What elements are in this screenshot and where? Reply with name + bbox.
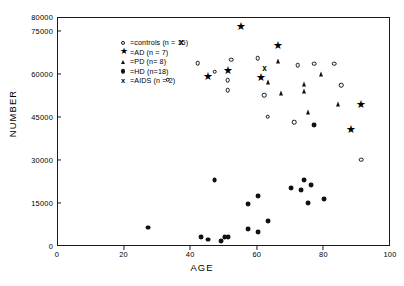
marker-filled-circle	[305, 201, 310, 206]
marker-filled-triangle	[266, 79, 270, 84]
marker-filled-circle	[255, 194, 260, 199]
marker-open-circle	[229, 57, 234, 62]
marker-filled-triangle	[302, 88, 306, 93]
x-tick-label: 60	[252, 250, 261, 259]
marker-open-circle	[312, 61, 317, 66]
marker-star: ★	[346, 124, 356, 135]
y-tick-label: 0	[49, 242, 53, 251]
marker-filled-circle	[265, 219, 270, 224]
plot-area: ★★★★★★★xx = controls (n = 15)★= AD (n = …	[57, 17, 390, 246]
marker-filled-circle	[245, 201, 250, 206]
legend-filled-triangle-icon	[121, 57, 130, 66]
legend-x-icon: x	[121, 76, 130, 85]
x-tick-label: 0	[55, 250, 59, 259]
legend-filled-circle-icon	[121, 67, 130, 76]
marker-open-circle	[265, 114, 270, 119]
marker-filled-circle	[245, 227, 250, 232]
marker-open-circle	[339, 83, 344, 88]
marker-filled-circle	[289, 185, 294, 190]
marker-filled-triangle	[276, 59, 280, 64]
marker-star: ★	[356, 99, 366, 110]
marker-open-circle	[256, 56, 261, 61]
legend-item: = PD (n= 8)	[121, 57, 229, 66]
legend-label: PD (n= 8)	[134, 57, 166, 66]
marker-filled-triangle	[302, 81, 306, 86]
scatter-plot-figure: NUMBER 0150003000045000600007500080000 0…	[0, 0, 404, 286]
y-axis-ticks: 0150003000045000600007500080000	[0, 0, 53, 286]
marker-open-circle	[292, 120, 297, 125]
marker-filled-circle	[212, 177, 217, 182]
marker-filled-circle	[205, 237, 210, 242]
marker-filled-triangle	[306, 109, 310, 114]
x-tick-mark	[123, 246, 124, 250]
marker-open-circle	[262, 93, 267, 98]
marker-filled-circle	[199, 235, 204, 240]
marker-filled-circle	[322, 197, 327, 202]
y-tick-label: 75000	[31, 27, 53, 36]
x-tick-mark	[323, 246, 324, 250]
y-tick-mark	[57, 117, 61, 118]
legend-item: = controls (n = 15)	[121, 38, 229, 47]
chart-legend: = controls (n = 15)★= AD (n = 7)= PD (n=…	[121, 38, 229, 85]
marker-filled-circle	[299, 187, 304, 192]
legend-label: AD (n = 7)	[134, 48, 168, 57]
x-tick-mark	[256, 246, 257, 250]
marker-x: x	[262, 65, 267, 73]
y-tick-label: 60000	[31, 70, 53, 79]
x-axis-title: AGE	[0, 262, 404, 273]
marker-open-circle	[332, 62, 337, 67]
y-tick-mark	[57, 160, 61, 161]
marker-filled-circle	[312, 123, 317, 128]
marker-star: ★	[256, 71, 266, 82]
legend-item: x= AIDS (n = 2)	[121, 76, 229, 85]
x-tick-label: 80	[319, 250, 328, 259]
x-tick-label: 100	[383, 250, 396, 259]
marker-star: ★	[273, 40, 283, 51]
legend-star-icon: ★	[121, 48, 130, 57]
x-tick-mark	[190, 246, 191, 250]
marker-filled-circle	[309, 183, 314, 188]
marker-open-circle	[295, 63, 300, 68]
marker-filled-circle	[255, 229, 260, 234]
x-tick-label: 20	[119, 250, 128, 259]
marker-star: ★	[236, 21, 246, 32]
y-tick-mark	[57, 203, 61, 204]
marker-filled-triangle	[279, 90, 283, 95]
legend-label: HD (n=18)	[134, 67, 168, 76]
y-tick-mark	[57, 31, 61, 32]
legend-item: ★= AD (n = 7)	[121, 47, 229, 56]
y-tick-label: 30000	[31, 156, 53, 165]
marker-open-circle	[226, 88, 231, 93]
marker-filled-triangle	[319, 72, 323, 77]
legend-label: controls (n = 15)	[134, 38, 188, 47]
marker-filled-circle	[302, 178, 307, 183]
marker-filled-circle	[225, 235, 230, 240]
legend-item: = HD (n=18)	[121, 66, 229, 75]
y-tick-label: 45000	[31, 113, 53, 122]
marker-filled-circle	[145, 225, 150, 230]
marker-filled-triangle	[336, 101, 340, 106]
y-tick-label: 80000	[31, 13, 53, 22]
y-tick-label: 15000	[31, 199, 53, 208]
marker-open-circle	[359, 157, 364, 162]
x-tick-label: 40	[186, 250, 195, 259]
legend-label: AIDS (n = 2)	[134, 76, 175, 85]
y-tick-mark	[57, 74, 61, 75]
